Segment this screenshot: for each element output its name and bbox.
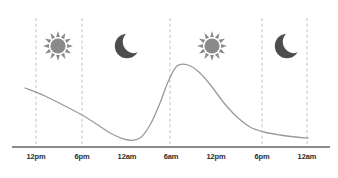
- sun-ray: [215, 33, 220, 39]
- sun-icon: [43, 31, 73, 61]
- x-tick-label-4: 12pm: [206, 152, 225, 162]
- sun-disc: [50, 38, 65, 53]
- sun-icon: [197, 31, 227, 61]
- series-path-0: [25, 64, 308, 140]
- sun-disc: [204, 38, 219, 53]
- sun-ray: [51, 53, 56, 59]
- sun-ray: [210, 31, 214, 37]
- daily-cycle-chart: 12pm6pm12am6am12pm6pm12am: [0, 0, 338, 178]
- sun-ray: [219, 49, 225, 54]
- sun-ray: [56, 55, 60, 61]
- moon-crescent: [115, 34, 139, 58]
- data-series-line: [25, 64, 308, 140]
- x-tick-label-6: 12am: [298, 152, 317, 162]
- sun-ray: [210, 55, 214, 61]
- sun-ray: [215, 53, 220, 59]
- moon-icon: [115, 34, 139, 58]
- x-tick-label-2: 12am: [118, 152, 137, 162]
- sun-ray: [56, 31, 60, 37]
- moon-icon: [275, 34, 299, 58]
- sun-ray: [199, 39, 205, 44]
- sun-ray: [61, 53, 66, 59]
- sun-ray: [61, 33, 66, 39]
- x-tick-label-1: 6pm: [74, 152, 89, 162]
- sun-ray: [45, 49, 51, 54]
- moon-crescent: [275, 34, 299, 58]
- sun-ray: [219, 39, 225, 44]
- sun-ray: [197, 44, 203, 48]
- x-tick-label-5: 6pm: [254, 152, 269, 162]
- sun-ray: [65, 39, 71, 44]
- sun-ray: [221, 44, 227, 48]
- sun-ray: [67, 44, 73, 48]
- gridlines: [36, 18, 307, 146]
- x-tick-label-3: 6am: [164, 152, 179, 162]
- sun-ray: [199, 49, 205, 54]
- sun-ray: [43, 44, 49, 48]
- sun-ray: [205, 53, 210, 59]
- x-tick-label-0: 12pm: [26, 152, 45, 162]
- sun-ray: [65, 49, 71, 54]
- sun-ray: [205, 33, 210, 39]
- sun-ray: [51, 33, 56, 39]
- day-night-icons: [43, 31, 299, 61]
- sun-ray: [45, 39, 51, 44]
